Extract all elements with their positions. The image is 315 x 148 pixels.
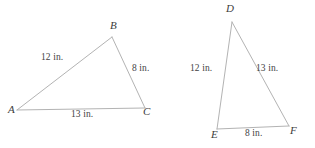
- vertex-label-f: F: [290, 125, 297, 136]
- vertex-label-b: B: [110, 20, 117, 31]
- vertex-label-c: C: [143, 106, 151, 117]
- side-label-bc: 8 in.: [132, 64, 149, 74]
- segment-ab: [17, 37, 112, 110]
- side-label-ef: 8 in.: [245, 129, 262, 139]
- vertex-label-d: D: [226, 3, 234, 14]
- vertex-label-a: A: [8, 104, 15, 115]
- triangle-def-shape: [217, 22, 289, 129]
- geometry-figure: A B C 12 in. 8 in. 13 in. D E F 12 in. 1…: [0, 0, 315, 148]
- vertex-label-e: E: [211, 129, 218, 140]
- segment-de: [217, 22, 232, 129]
- triangle-abc-shape: [17, 37, 145, 110]
- side-label-ab: 12 in.: [41, 53, 63, 63]
- triangles-svg: [0, 0, 315, 148]
- side-label-df: 13 in.: [256, 64, 278, 74]
- side-label-ac: 13 in.: [71, 110, 93, 120]
- side-label-de: 12 in.: [190, 64, 212, 74]
- segment-df: [232, 22, 289, 126]
